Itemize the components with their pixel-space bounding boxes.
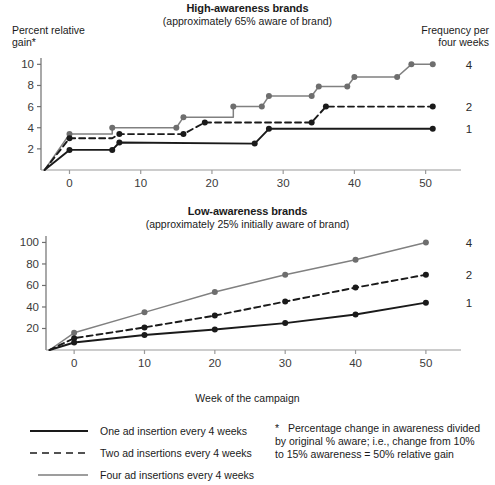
top-chart-ylabel: Percent relative gain* xyxy=(12,24,85,48)
legend-item-four: Four ad insertions every 4 weeks xyxy=(28,464,254,485)
data-point-2 xyxy=(66,135,72,141)
bottom-chart-plot: 2040608010001020304050421 xyxy=(0,222,495,372)
data-point-4 xyxy=(282,272,288,278)
y-tick-label: 4 xyxy=(28,122,35,134)
data-point-4 xyxy=(212,289,218,295)
data-point-1 xyxy=(423,300,429,306)
series-line-1 xyxy=(50,303,426,350)
x-tick-label: 30 xyxy=(279,357,292,369)
data-point-1 xyxy=(109,147,115,153)
legend: One ad insertion every 4 weeks Two ad in… xyxy=(28,420,254,485)
corner-note-line1: Frequency per xyxy=(421,24,489,36)
x-tick-label: 20 xyxy=(208,357,221,369)
data-point-4 xyxy=(430,61,436,67)
x-tick-label: 40 xyxy=(349,357,362,369)
x-tick-label: 50 xyxy=(419,177,432,189)
figure-root: High-awareness brands (approximately 65%… xyxy=(0,0,495,485)
data-point-4 xyxy=(316,84,322,90)
data-point-1 xyxy=(66,147,72,153)
y-tick-label: 6 xyxy=(28,101,34,113)
top-chart-title: High-awareness brands xyxy=(0,2,495,14)
top-chart-svg: 24681001020304050421 xyxy=(0,50,495,195)
x-tick-label: 0 xyxy=(66,177,72,189)
data-point-4 xyxy=(71,330,77,336)
y-tick-label: 60 xyxy=(26,279,39,291)
series-end-label-4: 4 xyxy=(466,237,473,249)
footnote: * Percentage change in awareness divided… xyxy=(275,422,485,461)
data-point-4 xyxy=(309,93,315,99)
legend-item-one: One ad insertion every 4 weeks xyxy=(28,420,254,442)
data-point-1 xyxy=(141,332,147,338)
data-point-4 xyxy=(408,61,414,67)
data-point-4 xyxy=(109,125,115,131)
x-tick-label: 20 xyxy=(206,177,219,189)
x-tick-label: 10 xyxy=(134,177,147,189)
footnote-text: Percentage change in awareness divided b… xyxy=(275,422,480,460)
x-tick-label: 40 xyxy=(348,177,361,189)
legend-item-two: Two ad insertions every 4 weeks xyxy=(28,442,254,464)
bottom-chart-title: Low-awareness brands xyxy=(0,205,495,217)
y-tick-label: 2 xyxy=(28,143,34,155)
data-point-1 xyxy=(430,126,436,132)
data-point-1 xyxy=(116,140,122,146)
legend-key-dashed-black xyxy=(28,448,90,458)
series-end-label-1: 1 xyxy=(466,297,472,309)
series-end-label-2: 2 xyxy=(466,269,472,281)
series-end-label-2: 2 xyxy=(466,101,472,113)
y-tick-label: 10 xyxy=(21,58,34,70)
legend-key-solid-black xyxy=(28,426,90,436)
legend-label-four: Four ad insertions every 4 weeks xyxy=(100,469,254,482)
data-point-4 xyxy=(173,125,179,131)
y-tick-label: 8 xyxy=(28,79,34,91)
series-end-label-4: 4 xyxy=(466,59,473,71)
y-tick-label: 20 xyxy=(26,322,39,334)
data-point-4 xyxy=(351,74,357,80)
x-tick-label: 30 xyxy=(277,177,290,189)
data-point-2 xyxy=(212,313,218,319)
data-point-2 xyxy=(180,131,186,137)
series-end-label-1: 1 xyxy=(466,123,472,135)
top-chart-ylabel-line1: Percent relative xyxy=(12,24,85,36)
footnote-marker: * xyxy=(275,422,279,435)
data-point-2 xyxy=(353,285,359,291)
data-point-4 xyxy=(344,84,350,90)
x-tick-label: 50 xyxy=(419,357,432,369)
top-chart-plot: 24681001020304050421 xyxy=(0,50,495,195)
data-point-2 xyxy=(202,119,208,125)
legend-label-two: Two ad insertions every 4 weeks xyxy=(100,447,252,460)
data-point-4 xyxy=(266,93,272,99)
data-point-4 xyxy=(230,104,236,110)
x-tick-label: 0 xyxy=(71,357,77,369)
data-point-4 xyxy=(180,114,186,120)
data-point-4 xyxy=(423,239,429,245)
data-point-4 xyxy=(141,309,147,315)
data-point-2 xyxy=(430,104,436,110)
data-point-2 xyxy=(323,104,329,110)
data-point-1 xyxy=(282,320,288,326)
series-line-2 xyxy=(45,107,433,170)
data-point-4 xyxy=(259,104,265,110)
x-tick-label: 10 xyxy=(138,357,151,369)
y-tick-label: 80 xyxy=(26,258,39,270)
data-point-2 xyxy=(116,131,122,137)
bottom-chart-svg: 2040608010001020304050421 xyxy=(0,222,495,372)
top-chart-ylabel-line2: gain* xyxy=(12,36,36,48)
top-chart-corner-note: Frequency per four weeks xyxy=(421,24,489,48)
data-point-1 xyxy=(252,141,258,147)
data-point-4 xyxy=(353,257,359,263)
x-axis-label: Week of the campaign xyxy=(0,392,495,404)
data-point-2 xyxy=(309,119,315,125)
data-point-1 xyxy=(212,327,218,333)
corner-note-line2: four weeks xyxy=(438,36,489,48)
data-point-1 xyxy=(353,312,359,318)
data-point-1 xyxy=(266,126,272,132)
series-line-4 xyxy=(45,64,433,170)
legend-label-one: One ad insertion every 4 weeks xyxy=(100,425,247,438)
data-point-2 xyxy=(282,299,288,305)
data-point-4 xyxy=(394,74,400,80)
y-tick-label: 100 xyxy=(20,236,39,248)
y-tick-label: 40 xyxy=(26,301,39,313)
series-line-1 xyxy=(45,129,433,170)
data-point-2 xyxy=(423,272,429,278)
data-point-2 xyxy=(141,324,147,330)
